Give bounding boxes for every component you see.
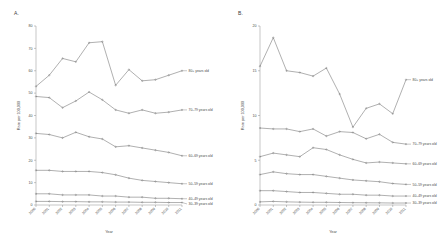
series-label: 40–49 years old: [189, 197, 213, 201]
series-line: [36, 170, 182, 183]
x-axis-tick-label: 2002: [55, 207, 63, 215]
y-axis-tick-label: 40: [29, 114, 33, 118]
series-line: [36, 92, 182, 113]
x-axis-tick-label: 2003: [292, 207, 300, 215]
series-label: 60–69 years old: [189, 154, 213, 158]
x-axis-tick-label: 2011: [398, 207, 406, 215]
series-line: [260, 128, 406, 144]
x-axis-tick-label: 2001: [265, 207, 273, 215]
x-axis-tick-label: 2005: [319, 207, 327, 215]
y-axis-tick-label: 10: [253, 114, 257, 118]
chart-panel-b: B. 0510152020002001200220032004200520062…: [224, 0, 448, 240]
series-label: 70–79 years old: [189, 108, 213, 112]
x-axis-tick-label: 2009: [148, 207, 156, 215]
x-axis-tick-label: 2007: [345, 207, 353, 215]
chart-panel-a: A. 0102030405060708020002001200220032004…: [0, 0, 224, 240]
series-line: [36, 194, 182, 199]
y-axis-tick-label: 80: [29, 24, 33, 28]
x-axis-tick-label: 2004: [81, 207, 89, 215]
x-axis-tick-label: 2004: [305, 207, 313, 215]
x-axis-title: Year: [329, 230, 337, 234]
series-label: 60–69 years old: [413, 162, 437, 166]
series-leader-line: [182, 203, 187, 204]
x-axis-tick-label: 2001: [41, 207, 49, 215]
series-label: 50–59 years old: [413, 183, 437, 187]
y-axis-tick-label: 30: [29, 136, 33, 140]
x-axis-tick-label: 2006: [332, 207, 340, 215]
y-axis-title: Rate per 100,000: [241, 101, 245, 130]
y-axis-tick-label: 20: [29, 159, 33, 163]
series-label: 30–39 years old: [413, 201, 437, 205]
plot-area-b: 0510152020002001200220032004200520062007…: [224, 0, 448, 240]
x-axis-tick-label: 2003: [68, 207, 76, 215]
series-line: [260, 191, 406, 196]
x-axis-tick-label: 2008: [358, 207, 366, 215]
x-axis-title: Year: [105, 230, 113, 234]
y-axis-tick-label: 0: [255, 203, 257, 207]
x-axis-tick-label: 2011: [174, 207, 182, 215]
x-axis-tick-label: 2006: [108, 207, 116, 215]
series-line: [260, 38, 406, 128]
x-axis-tick-label: 2009: [372, 207, 380, 215]
y-axis-tick-label: 0: [31, 203, 33, 207]
x-axis-tick-label: 2005: [95, 207, 103, 215]
y-axis-tick-label: 70: [29, 47, 33, 51]
y-axis-tick-label: 50: [29, 91, 33, 95]
series-line: [36, 42, 182, 87]
x-axis-tick-label: 2000: [252, 207, 260, 215]
series-label: 80+ years old: [189, 69, 210, 73]
series-line: [36, 132, 182, 156]
series-label: 50–59 years old: [189, 182, 213, 186]
x-axis-tick-label: 2008: [134, 207, 142, 215]
x-axis-tick-label: 2000: [28, 207, 36, 215]
series-line: [260, 172, 406, 185]
y-axis-tick-label: 10: [29, 181, 33, 185]
x-axis-tick-label: 2010: [161, 207, 169, 215]
y-axis-tick-label: 5: [255, 159, 257, 163]
y-axis-tick-label: 20: [253, 24, 257, 28]
figure-container: A. 0102030405060708020002001200220032004…: [0, 0, 448, 240]
x-axis-tick-label: 2002: [279, 207, 287, 215]
x-axis-tick-label: 2007: [121, 207, 129, 215]
y-axis-tick-label: 15: [253, 69, 257, 73]
x-axis-tick-label: 2010: [385, 207, 393, 215]
series-label: 70–79 years old: [413, 142, 437, 146]
series-label: 40–49 years old: [413, 194, 437, 198]
y-axis-tick-label: 60: [29, 69, 33, 73]
series-label: 80+ years old: [413, 78, 434, 82]
series-line: [260, 201, 406, 203]
plot-area-a: 0102030405060708020002001200220032004200…: [0, 0, 224, 240]
series-line: [36, 201, 182, 202]
series-line: [260, 148, 406, 164]
y-axis-title: Rate per 100,000: [17, 101, 21, 130]
series-label: 30–39 years old: [189, 202, 213, 206]
